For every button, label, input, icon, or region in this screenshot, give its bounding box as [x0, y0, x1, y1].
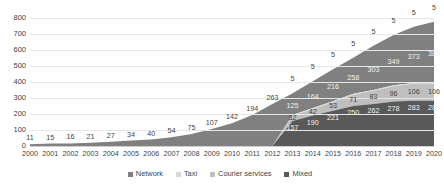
- data-label-network-value: 349: [388, 59, 400, 66]
- data-label-network-value: 125: [287, 102, 299, 109]
- x-axis-tick-label: 2013: [283, 150, 303, 158]
- data-label-network-value: 383: [428, 51, 440, 58]
- data-label-courier-services: 71: [349, 97, 357, 104]
- data-label-taxi: 5: [291, 76, 295, 83]
- plot-area: [30, 18, 434, 146]
- y-axis-tick-label: 300: [0, 94, 26, 102]
- legend-swatch-icon: [128, 172, 133, 177]
- data-label-taxi: 5: [412, 9, 416, 16]
- y-axis-tick-label: 500: [0, 62, 26, 70]
- legend-item[interactable]: Courier services: [210, 170, 271, 178]
- data-label-courier-services: 106: [408, 89, 420, 96]
- data-label-courier-services: 53: [329, 103, 337, 110]
- chart-legend: NetworkTaxiCourier servicesMixed: [0, 170, 440, 178]
- data-label-network-value: 164: [307, 93, 319, 100]
- data-label-network-value: 258: [347, 74, 359, 81]
- x-axis-tick-label: 2015: [323, 150, 343, 158]
- y-axis-tick-label: 800: [0, 14, 26, 22]
- data-label-mixed: 221: [327, 114, 339, 121]
- data-label-network: 16: [66, 134, 74, 141]
- data-label-network: 107: [206, 119, 218, 126]
- data-label-courier-services: 32: [289, 115, 297, 122]
- legend-swatch-icon: [284, 172, 289, 177]
- x-axis-tick-label: 2006: [141, 150, 161, 158]
- data-label-mixed: 262: [367, 107, 379, 114]
- data-label-network: 11: [26, 135, 33, 142]
- data-label-mixed: 157: [287, 124, 299, 131]
- data-label-courier-services: 42: [309, 109, 317, 116]
- data-label-taxi: 5: [351, 40, 355, 47]
- x-axis-tick-label: 2001: [40, 150, 60, 158]
- data-label-network-value: 373: [408, 53, 420, 60]
- x-axis-tick-label: 2020: [424, 150, 444, 158]
- data-label-courier-services: 106: [428, 89, 440, 96]
- data-label-network-value: 216: [327, 84, 339, 91]
- data-label-network-value: 303: [367, 66, 379, 73]
- data-label-taxi: 5: [432, 4, 436, 11]
- x-axis-tick-label: 2003: [81, 150, 101, 158]
- y-axis-tick-label: 200: [0, 110, 26, 118]
- x-axis-tick-label: 2017: [363, 150, 383, 158]
- data-label-mixed: 283: [408, 104, 420, 111]
- data-label-mixed: 283: [428, 104, 440, 111]
- data-label-network: 21: [87, 133, 95, 140]
- data-label-network: 142: [226, 114, 238, 121]
- legend-label: Courier services: [218, 170, 271, 178]
- x-axis-tick-label: 2019: [404, 150, 424, 158]
- gridline: [30, 18, 434, 19]
- x-axis-tick-label: 2007: [161, 150, 181, 158]
- legend-item[interactable]: Network: [128, 170, 163, 178]
- data-label-network: 15: [46, 134, 54, 141]
- data-label-taxi: 5: [331, 52, 335, 59]
- x-axis-tick-label: 2011: [242, 150, 262, 158]
- legend-swatch-icon: [210, 172, 215, 177]
- data-label-network: 54: [167, 128, 175, 135]
- y-axis-tick-label: 100: [0, 126, 26, 134]
- y-axis-tick-label: 400: [0, 78, 26, 86]
- x-axis-line: [30, 146, 434, 147]
- legend-label: Taxi: [184, 170, 197, 178]
- x-axis-tick-label: 2012: [262, 150, 282, 158]
- y-axis-tick-label: 600: [0, 46, 26, 54]
- legend-swatch-icon: [176, 172, 181, 177]
- data-label-mixed: 250: [347, 109, 359, 116]
- data-label-courier-services: 96: [390, 90, 398, 97]
- data-label-mixed: 190: [307, 119, 319, 126]
- data-label-network: 263: [266, 94, 278, 101]
- legend-label: Mixed: [292, 170, 312, 178]
- data-label-courier-services: 83: [369, 94, 377, 101]
- legend-item[interactable]: Mixed: [284, 170, 312, 178]
- x-axis-tick-label: 2010: [222, 150, 242, 158]
- x-axis-tick-label: 2016: [343, 150, 363, 158]
- data-label-mixed: 278: [388, 105, 400, 112]
- gridline: [30, 130, 434, 131]
- gridline: [30, 50, 434, 51]
- data-label-taxi: 5: [311, 64, 315, 71]
- legend-item[interactable]: Taxi: [176, 170, 197, 178]
- x-axis-tick-label: 2009: [202, 150, 222, 158]
- data-label-network: 40: [147, 130, 155, 137]
- x-axis-tick-label: 2002: [60, 150, 80, 158]
- x-axis-tick-label: 2005: [121, 150, 141, 158]
- x-axis-tick-label: 2004: [101, 150, 121, 158]
- data-label-network: 34: [127, 131, 135, 138]
- data-label-network: 194: [246, 105, 258, 112]
- y-axis-tick-label: 700: [0, 30, 26, 38]
- data-label-taxi: 5: [371, 28, 375, 35]
- legend-label: Network: [136, 170, 163, 178]
- x-axis-tick-label: 2008: [182, 150, 202, 158]
- x-axis-tick-label: 2018: [384, 150, 404, 158]
- x-axis-tick-label: 2014: [303, 150, 323, 158]
- x-axis-tick-label: 2000: [20, 150, 40, 158]
- gridline: [30, 82, 434, 83]
- data-label-network: 75: [188, 124, 196, 131]
- data-label-network: 27: [107, 132, 115, 139]
- data-label-taxi: 5: [392, 18, 396, 25]
